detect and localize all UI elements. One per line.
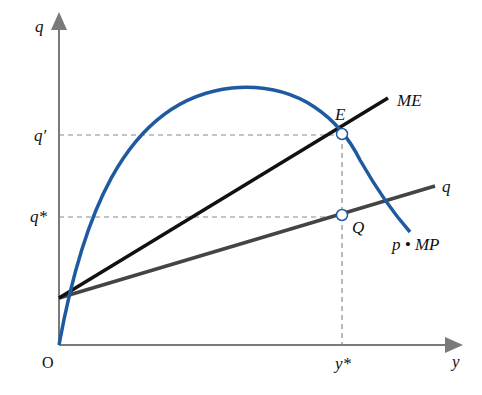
q-prime-label: q′ [34, 126, 47, 145]
x-axis-label: y [450, 352, 460, 371]
e-label: E [334, 105, 346, 124]
q-line [59, 186, 435, 298]
origin-label: O [42, 354, 54, 371]
y-axis-label: q [35, 17, 44, 36]
diagram: q y O q′ q* y* ME q p • MP E Q [0, 0, 482, 395]
q-star-label: q* [30, 207, 48, 226]
q-line-label: q [442, 177, 451, 196]
point-e [337, 129, 348, 140]
point-q [337, 210, 348, 221]
y-star-label: y* [333, 354, 352, 373]
p-mp-curve [59, 87, 410, 345]
q-point-label: Q [352, 218, 364, 237]
p-mp-label: p • MP [391, 235, 440, 254]
diagram-canvas: q y O q′ q* y* ME q p • MP E Q [0, 0, 482, 395]
me-label: ME [396, 91, 422, 110]
